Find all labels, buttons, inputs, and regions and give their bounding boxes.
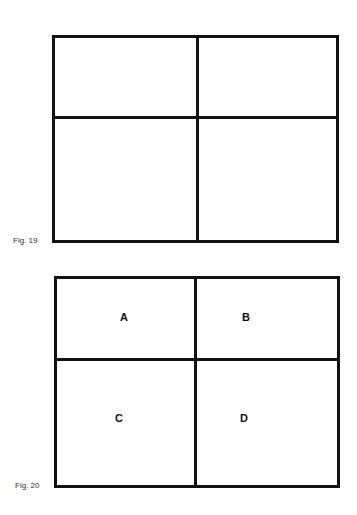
fig19-horizontal-divider: [52, 116, 339, 119]
fig20-cell-a-label: A: [120, 311, 128, 323]
fig20-vertical-divider: [194, 276, 197, 488]
fig20-frame: [54, 276, 340, 488]
fig20-caption: Fig. 20: [15, 481, 39, 490]
fig20-cell-b-label: B: [242, 311, 250, 323]
fig19-caption: Fig. 19: [13, 236, 37, 245]
fig20-cell-c-label: C: [115, 412, 123, 424]
fig20-cell-d-label: D: [240, 412, 248, 424]
fig19-vertical-divider: [196, 35, 199, 243]
fig20-horizontal-divider: [54, 358, 340, 361]
